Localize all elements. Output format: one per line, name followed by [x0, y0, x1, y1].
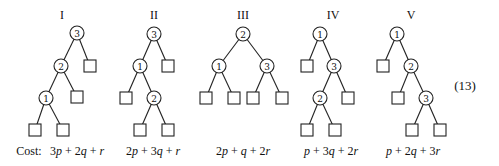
tree-cost: 3p + 2q + r — [50, 144, 105, 158]
node-key: 1 — [394, 30, 400, 40]
external-node-square — [84, 60, 96, 72]
tree-iv: IV132p + 3q + 2r — [301, 8, 358, 158]
node-key: 1 — [317, 30, 323, 40]
node-key: 1 — [43, 94, 49, 104]
node-key: 3 — [331, 62, 337, 72]
node-key: 3 — [423, 94, 429, 104]
external-node-square — [29, 124, 41, 136]
optimal-bst-diagram: I3213p + 2q + rII3122p + 3q + rIII2132p … — [0, 0, 499, 166]
node-key: 3 — [264, 62, 270, 72]
tree-label: II — [150, 8, 158, 22]
tree-ii: II3122p + 3q + r — [120, 8, 180, 158]
external-node-square — [301, 124, 313, 136]
external-node-square — [134, 124, 146, 136]
external-node-square — [71, 91, 83, 103]
external-node-square — [200, 92, 212, 104]
equation-number: (13) — [454, 78, 476, 93]
tree-cost: 2p + 3q + r — [126, 144, 181, 158]
tree-label: IV — [327, 8, 340, 22]
external-node-square — [162, 60, 174, 72]
tree-i: I3213p + 2q + r — [29, 8, 104, 158]
node-key: 3 — [151, 30, 157, 40]
internal-node-2: 2 — [236, 27, 250, 41]
internal-node-3: 3 — [327, 59, 341, 73]
tree-v: V123p + 2q + 3r — [377, 8, 446, 158]
node-key: 2 — [317, 94, 323, 104]
internal-node-1: 1 — [313, 27, 327, 41]
external-node-square — [392, 92, 404, 104]
node-key: 2 — [240, 30, 246, 40]
external-node-square — [276, 92, 288, 104]
tree-cost: p + 2q + 3r — [385, 144, 441, 158]
tree-iii: III2132p + q + 2r — [200, 8, 288, 158]
tree-cost: p + 3q + 2r — [303, 144, 359, 158]
tree-cost: 2p + q + 2r — [216, 144, 271, 158]
internal-node-1: 1 — [212, 59, 226, 73]
internal-node-3: 3 — [260, 59, 274, 73]
external-node-square — [329, 124, 341, 136]
external-node-square — [228, 92, 240, 104]
internal-node-3: 3 — [147, 27, 161, 41]
external-node-square — [57, 124, 69, 136]
internal-node-2: 2 — [147, 91, 161, 105]
node-key: 1 — [216, 62, 222, 72]
node-key: 2 — [408, 62, 414, 72]
internal-node-1: 1 — [39, 91, 53, 105]
node-key: 1 — [137, 62, 143, 72]
external-node-square — [301, 60, 313, 72]
internal-node-2: 2 — [404, 59, 418, 73]
tree-label: V — [407, 8, 416, 22]
node-key: 3 — [74, 29, 80, 39]
external-node-square — [342, 92, 354, 104]
external-node-square — [406, 124, 418, 136]
internal-node-2: 2 — [54, 59, 68, 73]
external-node-square — [120, 92, 132, 104]
external-node-square — [247, 92, 259, 104]
external-node-square — [377, 60, 389, 72]
tree-label: I — [60, 8, 64, 22]
external-node-square — [162, 124, 174, 136]
internal-node-1: 1 — [133, 59, 147, 73]
node-key: 2 — [58, 62, 64, 72]
internal-node-1: 1 — [390, 27, 404, 41]
tree-label: III — [237, 8, 249, 22]
cost-prefix: Cost: — [16, 144, 41, 158]
internal-node-3: 3 — [70, 26, 84, 40]
internal-node-2: 2 — [313, 91, 327, 105]
tree-diagrams: I3213p + 2q + rII3122p + 3q + rIII2132p … — [0, 0, 499, 166]
node-key: 2 — [151, 94, 157, 104]
internal-node-3: 3 — [419, 91, 433, 105]
external-node-square — [434, 124, 446, 136]
